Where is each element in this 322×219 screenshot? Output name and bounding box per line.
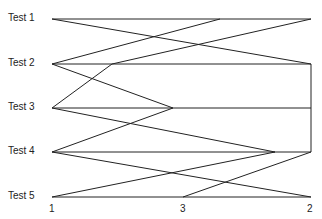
connection-diagram (0, 0, 322, 219)
